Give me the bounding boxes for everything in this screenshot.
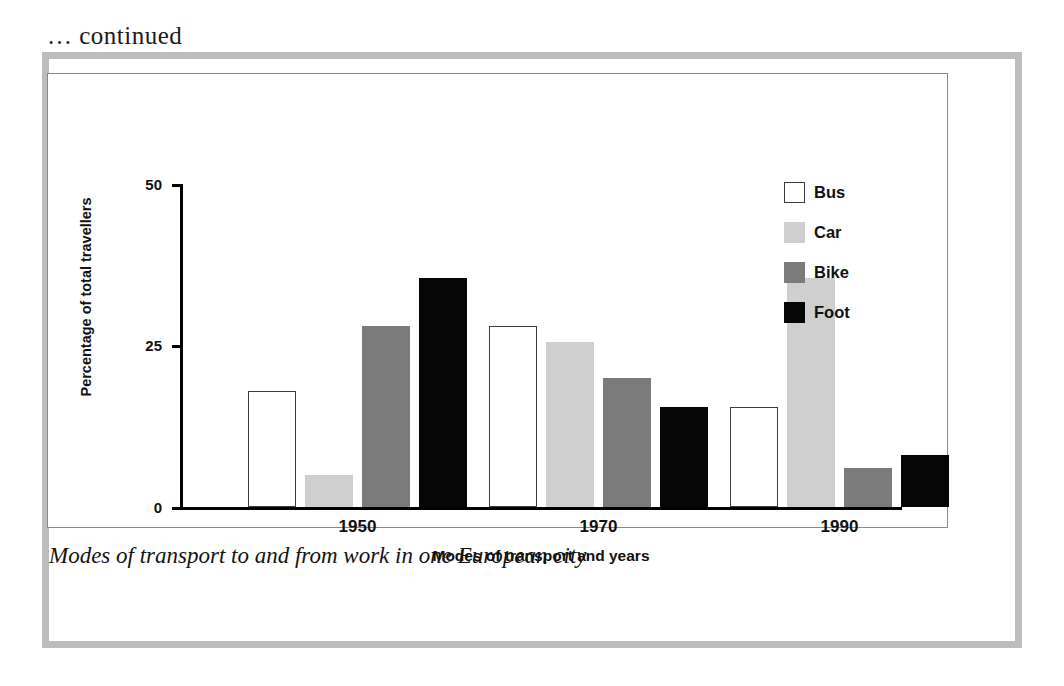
figure-caption: Modes of transport to and from work in o…: [49, 543, 586, 569]
legend-label-car: Car: [814, 223, 842, 242]
continued-note: … continued: [47, 22, 182, 50]
legend-item-bus: Bus: [784, 172, 850, 212]
bar-1970-car: [546, 342, 594, 507]
legend-swatch-bus-icon: [784, 182, 805, 203]
bar-1970-bus: [489, 326, 537, 507]
legend-item-foot: Foot: [784, 292, 850, 332]
x-group-label-1950: 1950: [288, 517, 428, 537]
legend-swatch-bike-icon: [784, 262, 805, 283]
legend-swatch-foot-icon: [784, 302, 805, 323]
bar-1950-foot: [419, 278, 467, 507]
legend-label-bike: Bike: [814, 263, 849, 282]
chart-panel: 50 25 0 Percentage of total travellers M…: [47, 73, 948, 528]
bar-chart: 50 25 0 Percentage of total travellers M…: [48, 74, 949, 529]
legend-label-bus: Bus: [814, 183, 845, 202]
bar-1970-bike: [603, 378, 651, 507]
legend-label-foot: Foot: [814, 303, 850, 322]
legend-item-car: Car: [784, 212, 850, 252]
bar-1990-bus: [730, 407, 778, 507]
bar-1950-bike: [362, 326, 410, 507]
bar-1950-car: [305, 475, 353, 507]
bar-1970-foot: [660, 407, 708, 507]
x-group-label-1970: 1970: [529, 517, 669, 537]
legend-item-bike: Bike: [784, 252, 850, 292]
y-tick-0: [172, 507, 183, 510]
bar-1990-foot: [901, 455, 949, 507]
chart-legend: BusCarBikeFoot: [784, 172, 850, 332]
bar-1950-bus: [248, 391, 296, 507]
x-axis-line: [180, 507, 902, 510]
bar-1990-bike: [844, 468, 892, 507]
legend-swatch-car-icon: [784, 222, 805, 243]
x-group-label-1990: 1990: [770, 517, 910, 537]
